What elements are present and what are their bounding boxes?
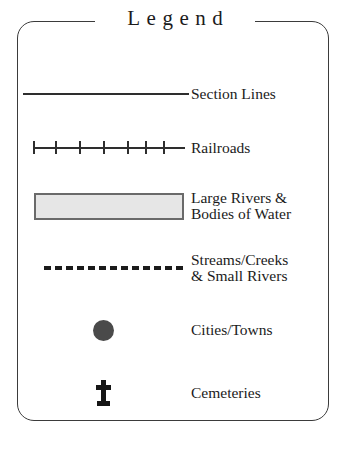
- cross-horizontal-bar: [96, 385, 111, 390]
- water-body-rectangle-icon: [34, 193, 184, 220]
- dash-segment: [110, 266, 117, 270]
- legend-row-cemeteries: Cemeteries: [17, 376, 329, 410]
- railroad-tie: [145, 141, 147, 154]
- legend-row-streams: Streams/Creeks & Small Rivers: [17, 251, 329, 285]
- filled-circle-icon: [93, 320, 114, 341]
- legend-row-section-lines: Section Lines: [17, 77, 329, 111]
- legend-row-railroads: Railroads: [17, 131, 329, 165]
- dash-segment: [165, 266, 172, 270]
- railroad-tie: [79, 141, 81, 154]
- legend-swatch-large-rivers: [17, 189, 189, 223]
- legend-label-text-line2: & Small Rivers: [191, 268, 329, 285]
- legend-label-railroads: Railroads: [189, 140, 329, 157]
- legend-label-text-line2: Bodies of Water: [191, 206, 329, 223]
- legend-label-text: Cemeteries: [191, 384, 261, 401]
- dash-segment: [44, 266, 51, 270]
- legend-swatch-streams: [17, 251, 189, 285]
- legend-row-cities: Cities/Towns: [17, 313, 329, 347]
- legend-label-text: Section Lines: [191, 85, 276, 102]
- legend-panel: Legend Section Lines: [0, 0, 350, 450]
- dash-segment: [154, 266, 161, 270]
- dash-segment: [121, 266, 128, 270]
- dash-segment: [88, 266, 95, 270]
- dash-segment: [77, 266, 84, 270]
- legend-label-section-lines: Section Lines: [189, 86, 329, 103]
- dash-segment: [176, 266, 183, 270]
- legend-label-streams: Streams/Creeks & Small Rivers: [189, 252, 329, 285]
- dash-segment: [66, 266, 73, 270]
- legend-label-text: Cities/Towns: [191, 321, 273, 338]
- dash-segment: [55, 266, 62, 270]
- legend-row-large-rivers: Large Rivers & Bodies of Water: [17, 189, 329, 223]
- legend-swatch-section-lines: [17, 77, 189, 111]
- legend-swatch-cemeteries: [17, 376, 189, 410]
- railroad-tie: [103, 141, 105, 154]
- legend-title: Legend: [0, 6, 350, 31]
- dash-segment: [99, 266, 106, 270]
- legend-label-cemeteries: Cemeteries: [189, 385, 329, 402]
- legend-label-text: Large Rivers &: [191, 189, 287, 206]
- railroad-hatched-line-icon: [33, 140, 185, 156]
- legend-swatch-railroads: [17, 131, 189, 165]
- dash-segment: [132, 266, 139, 270]
- legend-entry-list: Section Lines Railroads: [17, 21, 329, 421]
- legend-swatch-cities: [17, 313, 189, 347]
- cross-icon: [94, 380, 113, 406]
- railroad-tie: [163, 141, 165, 154]
- legend-label-cities: Cities/Towns: [189, 322, 329, 339]
- dash-segment: [143, 266, 150, 270]
- dashed-line-icon: [44, 266, 183, 270]
- solid-line-icon: [23, 93, 189, 95]
- railroad-tie: [127, 141, 129, 154]
- legend-label-text: Railroads: [191, 139, 250, 156]
- railroad-tie: [55, 141, 57, 154]
- legend-label-large-rivers: Large Rivers & Bodies of Water: [189, 190, 329, 223]
- cross-base: [97, 401, 110, 406]
- legend-label-text: Streams/Creeks: [191, 251, 288, 268]
- cross-vertical-bar: [101, 380, 106, 401]
